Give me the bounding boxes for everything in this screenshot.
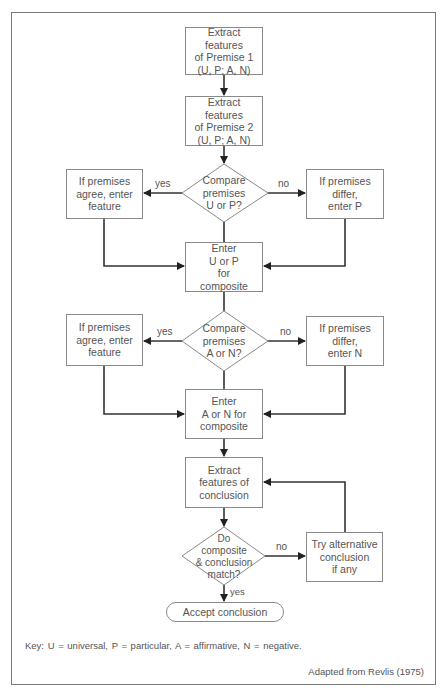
- node-differ-enter-p: If premises differ, enter P: [306, 169, 384, 219]
- source-credit: Adapted from Revlis (1975): [308, 666, 424, 677]
- edge-label-yes: yes: [155, 178, 171, 189]
- edge-label-yes: yes: [230, 586, 245, 597]
- decision-match: Do composite & conclusion match?: [180, 531, 268, 583]
- edge-label-no: no: [278, 178, 289, 189]
- node-agree-up: If premises agree, enter feature: [66, 169, 143, 219]
- edge-label-no: no: [276, 541, 287, 552]
- node-agree-an: If premises agree, enter feature: [66, 314, 143, 366]
- node-try-alternative: Try alternative conclusion if any: [306, 532, 383, 582]
- node-extract-premise-1: Extract features of Premise 1 (U, P; A, …: [185, 27, 263, 75]
- legend-key: Key: U = universal, P = particular, A = …: [25, 640, 302, 651]
- terminal-accept-conclusion: Accept conclusion: [166, 602, 284, 622]
- node-enter-a-or-n: Enter A or N for composite: [185, 389, 263, 439]
- node-enter-u-or-p: Enter U or P for composite: [185, 242, 263, 292]
- node-differ-enter-n: If premises differ, enter N: [306, 316, 384, 366]
- edge-label-no: no: [280, 326, 291, 337]
- node-extract-conclusion: Extract features of conclusion: [185, 457, 263, 508]
- decision-compare-an: Compare premises A or N?: [190, 320, 258, 362]
- edge-label-yes: yes: [157, 326, 173, 337]
- node-extract-premise-2: Extract features of Premise 2 (U, P; A, …: [185, 96, 263, 146]
- decision-compare-up: Compare premises U or P?: [190, 172, 258, 214]
